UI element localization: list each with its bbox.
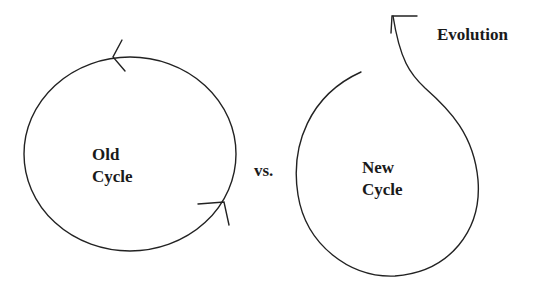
old-cycle-top-arrow-icon — [113, 40, 125, 71]
old-cycle-label-line2: Cycle — [92, 166, 133, 188]
new-cycle-label: New Cycle — [362, 157, 403, 201]
old-cycle-label-line1: Old — [92, 144, 133, 166]
new-cycle-label-line2: Cycle — [362, 179, 403, 201]
evolution-label: Evolution — [437, 24, 508, 46]
old-cycle-label: Old Cycle — [92, 144, 133, 188]
new-cycle-spiral — [296, 16, 478, 276]
vs-separator: vs. — [254, 160, 273, 182]
new-cycle-label-line1: New — [362, 157, 403, 179]
